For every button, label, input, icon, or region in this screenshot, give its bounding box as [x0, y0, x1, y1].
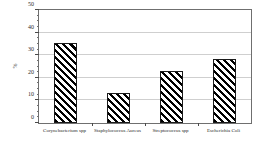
y-axis-minor-tick — [37, 82, 39, 83]
x-axis-category-label: Streptococcus spp — [144, 127, 197, 134]
x-axis-category-label: Corynebacterium spp — [38, 127, 91, 134]
plot-area: 01020304050 — [38, 9, 252, 124]
x-axis-category-label: Staphylococcus Aureus — [91, 127, 144, 134]
bar — [213, 59, 236, 123]
y-axis-minor-tick — [37, 43, 39, 44]
y-axis-tick — [35, 77, 39, 78]
y-axis-tick — [35, 9, 39, 10]
y-axis-tick-label: 10 — [28, 91, 34, 97]
x-axis-category-label: Escherichia Coli — [197, 127, 250, 134]
y-axis-minor-tick — [37, 88, 39, 89]
x-axis-tick — [145, 123, 146, 126]
y-axis-tick-label: 50 — [28, 1, 34, 7]
y-axis-tick — [35, 122, 39, 123]
y-axis-minor-tick — [37, 37, 39, 38]
y-axis-minor-tick — [37, 105, 39, 106]
y-axis-tick-label: 40 — [28, 24, 34, 30]
y-axis-tick — [35, 99, 39, 100]
y-axis-tick-label: 0 — [31, 114, 34, 120]
y-axis-minor-tick — [37, 116, 39, 117]
y-axis-tick — [35, 54, 39, 55]
y-axis-minor-tick — [37, 49, 39, 50]
plot-canvas: 01020304050 — [39, 10, 251, 123]
y-axis-minor-tick — [37, 66, 39, 67]
y-axis-minor-tick — [37, 94, 39, 95]
y-axis-minor-tick — [37, 26, 39, 27]
y-axis-minor-tick — [37, 20, 39, 21]
x-axis-tick — [92, 123, 93, 126]
y-axis-tick — [35, 32, 39, 33]
bar — [54, 43, 77, 123]
y-axis-tick-label: 30 — [28, 46, 34, 52]
y-axis-minor-tick — [37, 60, 39, 61]
bar — [160, 71, 183, 123]
y-axis-label: % — [11, 59, 19, 73]
y-axis-minor-tick — [37, 71, 39, 72]
bar-chart-figure: % 01020304050 Corynebacterium sppStaphyl… — [0, 0, 266, 148]
y-axis-minor-tick — [37, 15, 39, 16]
x-axis-tick — [198, 123, 199, 126]
bar — [107, 93, 130, 123]
gridline — [39, 32, 251, 33]
y-axis-minor-tick — [37, 111, 39, 112]
y-axis-tick-label: 20 — [28, 69, 34, 75]
